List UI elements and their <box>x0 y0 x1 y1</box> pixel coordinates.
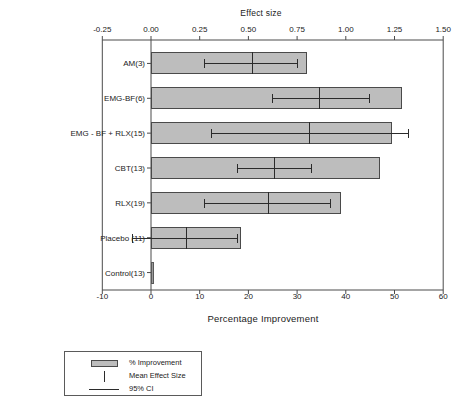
bottom-tick-label: 40 <box>341 292 350 301</box>
legend-symbol-1 <box>87 357 127 370</box>
legend-entry-2: Mean Effect Size <box>65 370 203 383</box>
category-label: Control(13) <box>0 268 145 277</box>
ci-cap-4-low <box>237 164 238 173</box>
plot-area <box>151 46 443 290</box>
ci-cap-1-low <box>204 59 205 68</box>
category-label: AM(3) <box>0 59 145 68</box>
ci-line-2 <box>272 98 369 99</box>
ci-cap-6-low <box>132 234 133 243</box>
mean-effect-size-2 <box>319 87 320 109</box>
bar-7 <box>151 262 154 284</box>
legend-bar-swatch-icon <box>91 360 118 367</box>
legend-mean-line-icon <box>104 371 105 382</box>
ci-cap-2-high <box>369 94 370 103</box>
top-tick-label: -0.25 <box>93 25 111 34</box>
mean-effect-size-3 <box>309 122 310 144</box>
ci-cap-3-low <box>211 129 212 138</box>
legend-entry-1: % Improvement <box>65 357 203 370</box>
bottom-tick-label: 10 <box>195 292 204 301</box>
top-axis-title: Effect size <box>0 8 472 18</box>
legend-label-2: Mean Effect Size <box>129 371 186 380</box>
ci-cap-5-low <box>204 199 205 208</box>
bottom-tick-label: 50 <box>390 292 399 301</box>
bottom-tick-label: 20 <box>244 292 253 301</box>
ci-cap-2-low <box>272 94 273 103</box>
effect-size-chart: Effect size Percentage Improvement -0.25… <box>0 0 472 406</box>
top-tick-label: 1.00 <box>338 25 354 34</box>
bottom-tick-label: 30 <box>293 292 302 301</box>
category-label: RLX(19) <box>0 198 145 207</box>
ci-cap-5-high <box>330 199 331 208</box>
legend-label-1: % Improvement <box>129 358 182 367</box>
ci-line-1 <box>204 63 298 64</box>
ci-cap-6-high <box>237 234 238 243</box>
top-tick-label: 0.50 <box>241 25 257 34</box>
top-tick-label: 0.00 <box>143 25 159 34</box>
legend-label-3: 95% CI <box>129 384 154 393</box>
mean-effect-size-1 <box>252 52 253 74</box>
mean-effect-size-6 <box>186 227 187 249</box>
top-tick-label: 0.75 <box>289 25 305 34</box>
bottom-tick-label: 0 <box>149 292 153 301</box>
ci-cap-4-high <box>311 164 312 173</box>
bottom-tick-label: -10 <box>97 292 109 301</box>
legend-ci-line-icon <box>89 389 119 390</box>
ci-cap-3-high <box>408 129 409 138</box>
category-label: CBT(13) <box>0 164 145 173</box>
bottom-tick-label: 60 <box>439 292 448 301</box>
category-label: Placebo (11) <box>0 233 145 242</box>
mean-effect-size-4 <box>274 157 275 179</box>
category-label: EMG-BF(6) <box>0 94 145 103</box>
chart-legend: % ImprovementMean Effect Size95% CI <box>64 351 202 396</box>
legend-entry-3: 95% CI <box>65 383 203 396</box>
ci-cap-1-high <box>297 59 298 68</box>
legend-symbol-3 <box>87 383 127 396</box>
category-label: EMG - BF + RLX(15) <box>0 129 145 138</box>
mean-effect-size-5 <box>268 192 269 214</box>
bottom-axis-title: Percentage Improvement <box>0 313 472 324</box>
top-tick-label: 0.25 <box>192 25 208 34</box>
legend-symbol-2 <box>87 370 127 383</box>
top-tick-label: 1.25 <box>387 25 403 34</box>
top-tick-label: 1.50 <box>435 25 451 34</box>
ci-line-6 <box>132 238 237 239</box>
